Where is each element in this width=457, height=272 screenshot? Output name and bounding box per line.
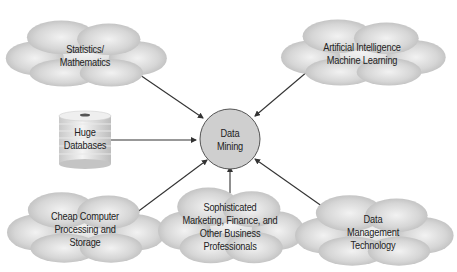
datamgmt-label-line3: Technology — [333, 239, 412, 252]
datamgmt-label-line1: Data — [333, 213, 412, 226]
arrow-statistics-to-mining — [140, 75, 203, 118]
datamgmt-label-line2: Management — [333, 226, 412, 239]
professionals-label-line4: Professionals — [177, 240, 283, 253]
computer-label-line1: Cheap Computer — [41, 210, 129, 223]
professionals-label: Sophisticated Marketing, Finance, and Ot… — [177, 201, 283, 253]
center-label-line1: Data — [204, 127, 257, 140]
statistics-label-line1: Statistics/ — [50, 43, 120, 56]
center-label-line2: Mining — [204, 140, 257, 153]
professionals-label-line1: Sophisticated — [177, 201, 283, 214]
computer-label: Cheap Computer Processing and Storage — [41, 210, 129, 249]
databases-label-line1: Huge — [59, 126, 112, 139]
professionals-label-line2: Marketing, Finance, and — [177, 214, 283, 227]
datamgmt-label: Data Management Technology — [333, 213, 412, 252]
ai-label: Artificial Intelligence Machine Learning — [309, 41, 415, 67]
databases-label-line2: Databases — [59, 139, 112, 152]
data-mining-diagram: Data Mining Statistics/ Mathematics Arti… — [0, 0, 457, 272]
computer-label-line2: Processing and — [41, 223, 129, 236]
computer-label-line3: Storage — [41, 236, 129, 249]
professionals-label-line3: Other Business — [177, 227, 283, 240]
statistics-label: Statistics/ Mathematics — [50, 43, 120, 69]
statistics-label-line2: Mathematics — [50, 56, 120, 69]
databases-label: Huge Databases — [59, 126, 112, 152]
ai-label-line2: Machine Learning — [309, 54, 415, 67]
center-label: Data Mining — [204, 127, 257, 153]
ai-label-line1: Artificial Intelligence — [309, 41, 415, 54]
